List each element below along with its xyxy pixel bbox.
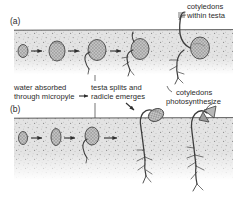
annotation-line-1: cotyledons [187, 2, 224, 11]
annotation-line-1: water absorbed [13, 83, 66, 92]
annotation-line-1: cotyledons [176, 88, 213, 97]
panel-label-b: (b) [10, 104, 21, 114]
annotation-line-2: photosynthesize [166, 97, 221, 106]
annotation-line-2: radicle emerges [91, 92, 145, 101]
germination-diagram-svg: (a) [0, 0, 233, 197]
panel-label-a: (a) [10, 16, 21, 26]
stage-a2-imbibed-seed [49, 41, 65, 61]
soil-surface-line-a [14, 30, 233, 31]
annotation-line-1: testa splits and [91, 83, 142, 92]
soil-band-b [14, 118, 233, 180]
stage-b1-dry-seed [19, 132, 28, 145]
stage-a1-dry-seed [18, 45, 28, 58]
annotation-line-2: within testa [186, 11, 226, 20]
stage-b2-imbibed-seed [51, 129, 61, 146]
annotation-line-2: through micropyle [14, 92, 74, 101]
germination-figure: (a) [0, 0, 233, 197]
